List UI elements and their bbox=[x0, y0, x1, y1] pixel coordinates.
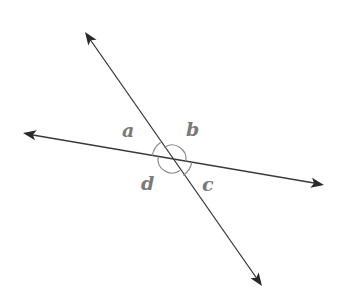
angle-label-d: d bbox=[141, 174, 154, 193]
intersecting-lines-diagram bbox=[0, 0, 342, 304]
arrowhead-left-icon bbox=[22, 128, 37, 140]
arrowhead-bottom-icon bbox=[250, 272, 266, 288]
angle-label-c: c bbox=[202, 175, 214, 194]
line-2 bbox=[27, 134, 320, 184]
angle-arc-a bbox=[152, 143, 160, 156]
arrowhead-top-icon bbox=[81, 29, 97, 45]
angle-arc-c bbox=[183, 162, 191, 175]
angle-label-b: b bbox=[186, 120, 199, 139]
angle-label-a: a bbox=[122, 121, 134, 140]
arrowhead-right-icon bbox=[310, 178, 325, 190]
